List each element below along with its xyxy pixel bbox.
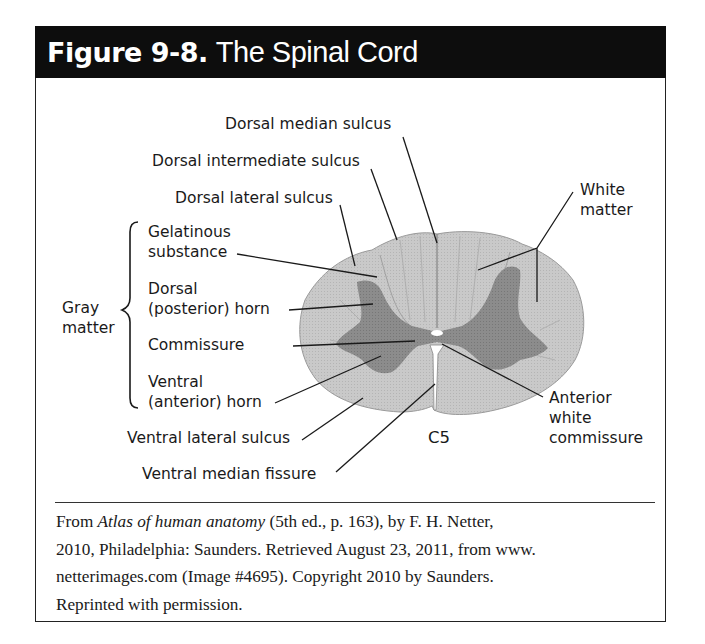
figure-caption: From Atlas of human anatomy (5th ed., p.… — [56, 508, 656, 618]
label-dorsal-horn-line2: (posterior) horn — [148, 300, 270, 318]
caption-line-1: From Atlas of human anatomy (5th ed., p.… — [56, 508, 656, 536]
label-ventral-median-fissure: Ventral median fissure — [142, 465, 316, 483]
label-white-matter-line2: matter — [580, 201, 633, 219]
label-gray-matter-line2: matter — [62, 319, 115, 337]
label-dorsal-lateral-sulcus: Dorsal lateral sulcus — [175, 189, 333, 207]
label-white-matter-line1: White — [580, 181, 625, 199]
caption-line-2: 2010, Philadelphia: Saunders. Retrieved … — [56, 536, 656, 564]
caption-line-3: netterimages.com (Image #4695). Copyrigh… — [56, 563, 656, 591]
label-gray-matter-line1: Gray — [62, 299, 99, 317]
label-gelatinous-line2: substance — [148, 243, 227, 261]
caption-separator — [55, 502, 655, 503]
label-dorsal-median-sulcus: Dorsal median sulcus — [225, 115, 391, 133]
caption-line1-rest: (5th ed., p. 163), by F. H. Netter, — [265, 512, 494, 531]
label-anterior-white-commissure-line3: commissure — [549, 429, 643, 447]
label-gelatinous-line1: Gelatinous — [148, 223, 231, 241]
label-dorsal-horn-line1: Dorsal — [148, 280, 198, 298]
label-ventral-horn-line2: (anterior) horn — [148, 393, 262, 411]
label-commissure: Commissure — [148, 336, 244, 354]
caption-line-4: Reprinted with permission. — [56, 591, 656, 619]
label-dorsal-intermediate-sulcus: Dorsal intermediate sulcus — [152, 152, 360, 170]
central-canal — [431, 330, 443, 336]
label-ventral-lateral-sulcus: Ventral lateral sulcus — [127, 429, 290, 447]
caption-prefix: From — [56, 512, 98, 531]
caption-book-title: Atlas of human anatomy — [98, 512, 266, 531]
label-segment-c5: C5 — [428, 428, 450, 447]
label-anterior-white-commissure-line1: Anterior — [549, 389, 612, 407]
gray-matter-brace-icon — [122, 222, 138, 408]
label-ventral-horn-line1: Ventral — [148, 373, 203, 391]
white-matter-region — [300, 232, 584, 415]
label-anterior-white-commissure-line2: white — [549, 409, 591, 427]
